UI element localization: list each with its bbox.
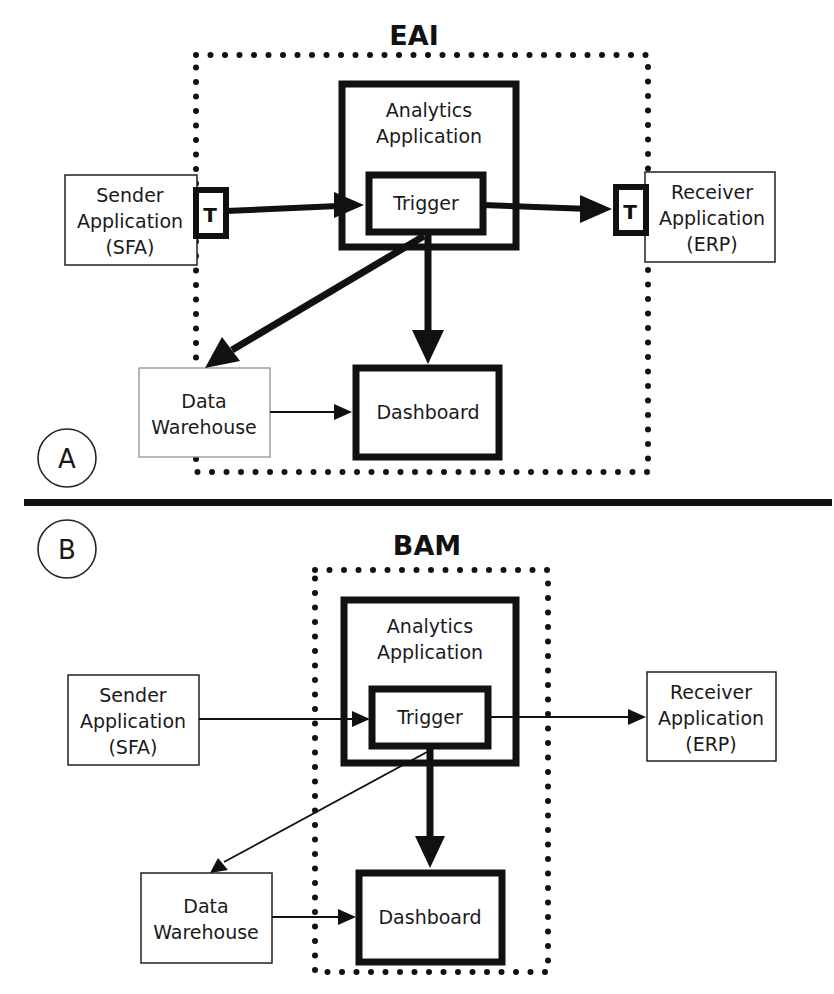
svg-text:Sender: Sender <box>96 184 164 206</box>
arrow-warehouse-to-dashboard-a <box>270 404 352 420</box>
data-warehouse-a: Data Warehouse <box>139 368 270 457</box>
dashboard-b: Dashboard <box>359 873 502 962</box>
svg-text:Trigger: Trigger <box>396 706 463 728</box>
svg-text:Receiver: Receiver <box>671 181 753 203</box>
svg-text:A: A <box>58 444 76 474</box>
svg-text:Sender: Sender <box>99 684 167 706</box>
svg-text:Trigger: Trigger <box>392 192 459 214</box>
svg-text:Application: Application <box>80 710 186 732</box>
svg-text:(SFA): (SFA) <box>105 236 154 258</box>
panel-b-marker: B <box>38 520 96 578</box>
sender-application-a: Sender Application (SFA) <box>65 175 197 265</box>
dashboard-a: Dashboard <box>356 368 499 457</box>
svg-text:Warehouse: Warehouse <box>151 416 257 438</box>
svg-text:Application: Application <box>376 125 482 147</box>
svg-text:T: T <box>203 203 217 227</box>
svg-text:Data: Data <box>183 895 228 917</box>
trigger-a: Trigger <box>369 175 483 232</box>
eai-vs-bam-diagram: EAI Sender Application (SFA) T Receiver … <box>0 0 834 994</box>
svg-text:Receiver: Receiver <box>670 681 752 703</box>
svg-text:Application: Application <box>659 207 765 229</box>
panel-b-bam: B BAM Sender Application (SFA) Receiver … <box>38 520 776 972</box>
svg-text:Dashboard: Dashboard <box>376 401 479 423</box>
svg-text:Application: Application <box>77 210 183 232</box>
svg-text:Application: Application <box>377 641 483 663</box>
arrow-trigger-to-warehouse-b <box>210 752 427 873</box>
receiver-application-b: Receiver Application (ERP) <box>647 672 776 761</box>
panel-a-title: EAI <box>389 20 438 51</box>
svg-text:Data: Data <box>181 390 226 412</box>
panel-b-title: BAM <box>393 530 461 561</box>
svg-text:Warehouse: Warehouse <box>153 921 259 943</box>
svg-text:(SFA): (SFA) <box>108 736 157 758</box>
svg-text:T: T <box>623 200 637 224</box>
panel-a-eai: EAI Sender Application (SFA) T Receiver … <box>38 20 775 487</box>
arrow-trigger-to-warehouse-a <box>205 236 424 368</box>
svg-text:B: B <box>58 535 76 565</box>
data-warehouse-b: Data Warehouse <box>141 873 272 963</box>
panel-divider <box>24 499 832 506</box>
panel-a-marker: A <box>38 429 96 487</box>
trigger-b: Trigger <box>372 689 488 746</box>
svg-text:Application: Application <box>658 707 764 729</box>
svg-text:Analytics: Analytics <box>386 99 472 121</box>
svg-text:Dashboard: Dashboard <box>378 906 481 928</box>
svg-text:(ERP): (ERP) <box>686 233 738 255</box>
svg-text:(ERP): (ERP) <box>685 733 737 755</box>
svg-text:Analytics: Analytics <box>387 615 473 637</box>
transformer-adapter-left: T <box>196 190 226 236</box>
transformer-adapter-right: T <box>616 187 646 233</box>
receiver-application-a: Receiver Application (ERP) <box>645 172 775 262</box>
sender-application-b: Sender Application (SFA) <box>68 675 199 765</box>
arrow-trigger-to-dashboard-a <box>412 232 444 364</box>
